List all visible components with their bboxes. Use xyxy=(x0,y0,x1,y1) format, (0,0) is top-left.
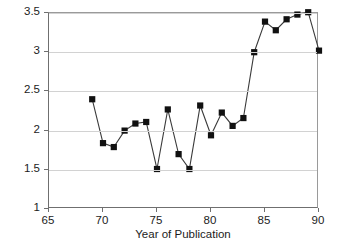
y-tick-label: 1.5 xyxy=(0,163,40,175)
plot-area xyxy=(48,12,318,208)
y-gridline xyxy=(49,91,317,92)
x-tick-mark xyxy=(48,208,49,212)
y-gridline xyxy=(49,13,317,14)
y-gridline xyxy=(49,131,317,132)
y-tick-mark xyxy=(44,90,48,91)
data-point-marker xyxy=(240,115,246,121)
y-tick-mark xyxy=(44,169,48,170)
x-tick-mark xyxy=(210,208,211,212)
y-tick-mark xyxy=(44,51,48,52)
x-tick-label: 75 xyxy=(150,215,163,227)
x-tick-label: 90 xyxy=(312,215,325,227)
x-tick-mark xyxy=(102,208,103,212)
data-point-marker xyxy=(176,151,182,157)
x-tick-label: 70 xyxy=(96,215,109,227)
data-point-marker xyxy=(111,144,117,150)
data-point-marker xyxy=(165,106,171,112)
chart-figure: % of Total JEL Publications Year of Publ… xyxy=(0,0,350,246)
x-tick-label: 85 xyxy=(258,215,271,227)
y-tick-label: 2 xyxy=(0,124,40,136)
x-tick-mark xyxy=(264,208,265,212)
y-tick-label: 2.5 xyxy=(0,84,40,96)
y-tick-label: 3 xyxy=(0,45,40,57)
y-tick-label: 3.5 xyxy=(0,6,40,18)
data-point-marker xyxy=(143,119,149,125)
data-point-marker xyxy=(273,27,279,33)
y-axis-label-container: % of Total JEL Publications xyxy=(0,0,16,220)
y-gridline xyxy=(49,170,317,171)
x-tick-mark xyxy=(156,208,157,212)
y-tick-mark xyxy=(44,12,48,13)
data-point-marker xyxy=(100,140,106,146)
data-point-marker xyxy=(89,96,95,102)
data-point-marker xyxy=(284,16,290,22)
data-point-marker xyxy=(230,123,236,129)
data-point-marker xyxy=(219,109,225,115)
data-point-marker xyxy=(262,19,268,25)
y-gridline xyxy=(49,52,317,53)
data-point-marker xyxy=(208,132,214,138)
x-axis-title: Year of Publication xyxy=(48,228,318,240)
data-point-marker xyxy=(197,102,203,108)
x-tick-mark xyxy=(318,208,319,212)
x-tick-label: 80 xyxy=(204,215,217,227)
y-tick-mark xyxy=(44,130,48,131)
data-point-marker xyxy=(132,120,138,126)
data-series-svg xyxy=(49,13,319,209)
x-tick-label: 65 xyxy=(42,215,55,227)
y-tick-label: 1 xyxy=(0,202,40,214)
